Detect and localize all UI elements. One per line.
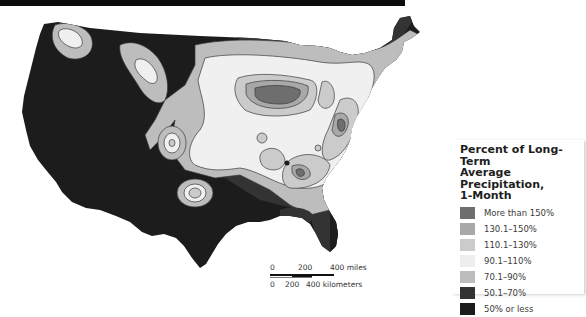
legend-item-more-than-150: More than 150%	[460, 205, 584, 221]
legend-label: 130.1–150%	[484, 224, 537, 234]
legend-swatch	[460, 207, 475, 219]
legend-title-line-3: 1-Month	[460, 190, 585, 202]
legend-label: 50.1–70%	[484, 288, 526, 298]
scale-km-400: 400 kilometers	[306, 280, 362, 289]
legend-title-line-1: Percent of Long-Term	[460, 144, 585, 167]
legend-item-50-70: 50.1–70%	[460, 285, 584, 301]
scale-miles-200: 200	[298, 263, 312, 272]
legend-label: 110.1–130%	[484, 240, 537, 250]
legend-label: 70.1–90%	[484, 272, 526, 282]
legend-swatch	[460, 239, 475, 251]
legend-label: 50% or less	[484, 304, 533, 314]
legend-item-70-90: 70.1–90%	[460, 269, 584, 285]
legend-swatch	[460, 271, 475, 283]
legend-label: More than 150%	[484, 208, 554, 218]
legend-swatch	[460, 255, 475, 267]
legend-item-90-110: 90.1–110%	[460, 253, 584, 269]
legend-item-130-150: 130.1–150%	[460, 221, 584, 237]
scale-bar-km-line	[270, 277, 312, 278]
scale-km-200: 200	[285, 280, 299, 289]
legend-swatch	[460, 287, 475, 299]
legend-label: 90.1–110%	[484, 256, 531, 266]
scale-km-0: 0	[270, 280, 275, 289]
scale-miles-0: 0	[270, 263, 275, 272]
legend-swatch	[460, 303, 475, 315]
scale-miles-400: 400 miles	[330, 263, 367, 272]
legend-item-50-or-less: 50% or less	[460, 301, 584, 317]
legend-title-line-2: Average Precipitation,	[460, 167, 585, 190]
map-legend: Percent of Long-Term Average Precipitati…	[452, 140, 584, 294]
scale-bar: 0 200 400 miles 0 200 400 kilometers	[270, 263, 390, 293]
legend-swatch	[460, 223, 475, 235]
legend-title: Percent of Long-Term Average Precipitati…	[460, 144, 585, 202]
legend-item-110-130: 110.1–130%	[460, 237, 584, 253]
